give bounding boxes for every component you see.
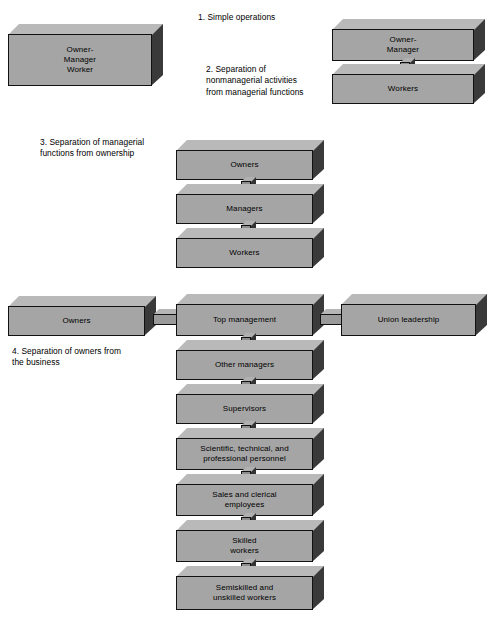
block-front-face: Owners — [176, 150, 313, 180]
block-owners-stage3: Owners — [176, 140, 324, 180]
block-owners-stage4: Owners — [8, 296, 156, 336]
caption-2: 2. Separation of nonmanagerial activitie… — [206, 64, 341, 98]
block-front-face: Scientific, technical, and professional … — [176, 438, 313, 470]
organization-differentiation-diagram: Owner- Manager Worker 1. Simple operatio… — [0, 0, 495, 627]
block-label: Top management — [213, 315, 276, 325]
block-workers-stage2: Workers — [332, 64, 485, 104]
caption-1: 1. Simple operations — [198, 12, 348, 23]
block-label: Skilled workers — [230, 536, 259, 556]
block-front-face: Sales and clerical employees — [176, 484, 313, 516]
block-label: Supervisors — [223, 404, 266, 414]
block-union-leadership: Union leadership — [341, 294, 487, 336]
block-label: Workers — [229, 248, 259, 258]
block-label: Semiskilled and unskilled workers — [213, 583, 276, 603]
block-label: Owners — [230, 160, 258, 170]
block-front-face: Other managers — [176, 350, 313, 380]
block-owner-manager-worker: Owner- Manager Worker — [8, 24, 163, 86]
block-label: Workers — [388, 84, 418, 94]
caption-3: 3. Separation of managerial functions fr… — [40, 137, 180, 160]
block-front-face: Skilled workers — [176, 530, 313, 562]
block-front-face: Supervisors — [176, 394, 313, 424]
block-skilled-workers: Skilled workers — [176, 520, 324, 562]
block-label: Owner- Manager Worker — [64, 45, 96, 75]
block-label: Scientific, technical, and professional … — [200, 444, 288, 464]
block-front-face: Owners — [8, 306, 145, 336]
block-other-managers: Other managers — [176, 340, 324, 380]
block-front-face: Managers — [176, 194, 313, 224]
block-label: Managers — [226, 204, 262, 214]
block-label: Union leadership — [378, 315, 440, 325]
block-front-face: Owner- Manager Worker — [8, 34, 152, 86]
block-managers-stage3: Managers — [176, 184, 324, 224]
block-sales-and-clerical-employees: Sales and clerical employees — [176, 474, 324, 516]
block-front-face: Owner- Manager — [332, 29, 474, 61]
caption-4: 4. Separation of owners from the busines… — [12, 346, 172, 369]
block-supervisors: Supervisors — [176, 384, 324, 424]
block-label: Owners — [62, 316, 90, 326]
block-workers-stage3: Workers — [176, 228, 324, 268]
block-scientific-technical-professional: Scientific, technical, and professional … — [176, 428, 324, 470]
block-semiskilled-and-unskilled-workers: Semiskilled and unskilled workers — [176, 566, 324, 610]
block-front-face: Union leadership — [341, 304, 476, 336]
block-label: Other managers — [215, 360, 274, 370]
block-front-face: Top management — [176, 304, 313, 336]
block-label: Owner- Manager — [387, 35, 419, 55]
block-label: Sales and clerical employees — [212, 490, 277, 510]
block-front-face: Workers — [176, 238, 313, 268]
block-top-management: Top management — [176, 294, 324, 336]
block-owner-manager: Owner- Manager — [332, 19, 485, 61]
block-front-face: Workers — [332, 74, 474, 104]
block-front-face: Semiskilled and unskilled workers — [176, 576, 313, 610]
